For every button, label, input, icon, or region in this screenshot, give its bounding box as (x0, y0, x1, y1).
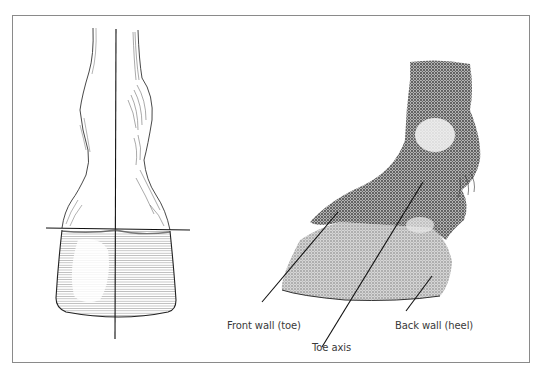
lateral-view-limb-drawing (262, 60, 480, 347)
label-front-wall: Front wall (toe) (227, 320, 301, 331)
label-toe-axis: Toe axis (312, 342, 351, 353)
label-back-wall: Back wall (heel) (395, 320, 473, 331)
front-view-limb-drawing (46, 28, 190, 339)
